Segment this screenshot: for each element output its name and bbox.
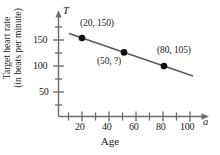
x-tick-label-80: 80: [156, 122, 166, 132]
x-axis-variable-label: a: [203, 117, 208, 128]
y-axis-title: Target heart rate (in beats per minute): [1, 0, 31, 109]
y-tick-label-100: 100: [33, 61, 47, 71]
y-axis-title-line2: (in beats per minute): [12, 0, 23, 109]
data-point-20-150: [79, 35, 86, 42]
data-point-80-105: [161, 63, 168, 70]
data-point-50-unknown: [121, 49, 128, 56]
x-axis-title: Age: [0, 136, 220, 147]
heart-rate-graph-figure: T a 150 100 50 20 40 60 80 100 (20, 150)…: [0, 0, 220, 155]
y-tick-label-50: 50: [39, 87, 49, 97]
x-tick-label-60: 60: [129, 122, 139, 132]
point-label-20-150: (20, 150): [80, 19, 114, 29]
y-axis-title-line1: Target heart rate: [1, 17, 12, 80]
x-tick-label-40: 40: [102, 122, 112, 132]
y-axis-variable-label: T: [63, 6, 69, 17]
y-axis-arrowhead: [55, 11, 61, 18]
x-tick-label-20: 20: [75, 122, 85, 132]
y-tick-label-150: 150: [33, 35, 47, 45]
point-label-50-unknown: (50, ?): [97, 57, 121, 67]
x-tick-label-100: 100: [180, 122, 194, 132]
point-label-80-105: (80, 105): [157, 46, 191, 56]
